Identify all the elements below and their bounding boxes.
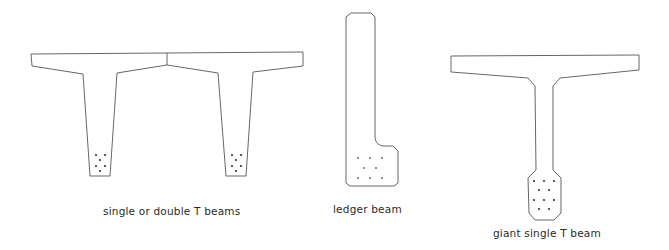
ledger-beam-shape <box>346 13 398 186</box>
giant-t-strands <box>533 180 555 210</box>
giant-t-label: giant single T beam <box>493 227 601 239</box>
giant-t-beam-shape <box>451 55 639 220</box>
double-t-beam-shape <box>31 52 303 176</box>
double-t-label: single or double T beams <box>103 205 240 217</box>
ledger-beam-label: ledger beam <box>333 203 402 215</box>
double-t-right-strands <box>231 154 242 172</box>
double-t-left-strands <box>95 154 106 172</box>
ledger-strands <box>357 157 383 179</box>
